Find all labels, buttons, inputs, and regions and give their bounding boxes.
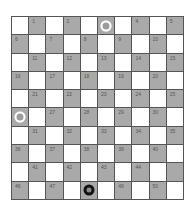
square-number: 31: [32, 129, 38, 134]
light-square: [167, 72, 183, 89]
square-number: 29: [118, 110, 124, 115]
light-square: [167, 145, 183, 162]
square-number: 13: [101, 56, 107, 61]
square-23[interactable]: 23: [98, 90, 114, 107]
square-29[interactable]: 29: [115, 108, 131, 125]
square-18[interactable]: 18: [81, 72, 97, 89]
light-square: [46, 90, 62, 107]
square-number: 10: [153, 37, 159, 42]
square-number: 28: [84, 110, 90, 115]
light-square: [12, 17, 28, 34]
square-11[interactable]: 11: [29, 54, 45, 71]
square-34[interactable]: 34: [132, 127, 148, 144]
square-14[interactable]: 14: [132, 54, 148, 71]
checkers-board: 1245678910111213141516171819202122232425…: [11, 16, 184, 200]
square-number: 44: [135, 165, 141, 170]
square-32[interactable]: 32: [64, 127, 80, 144]
square-number: 35: [170, 129, 176, 134]
square-13[interactable]: 13: [98, 54, 114, 71]
light-square: [115, 90, 131, 107]
square-number: 33: [101, 129, 107, 134]
square-2[interactable]: 2: [64, 17, 80, 34]
light-square: [167, 182, 183, 199]
square-42[interactable]: 42: [64, 163, 80, 180]
square-number: 38: [84, 147, 90, 152]
light-square: [64, 35, 80, 52]
light-square: [98, 108, 114, 125]
light-square: [132, 72, 148, 89]
square-number: 42: [67, 165, 73, 170]
square-41[interactable]: 41: [29, 163, 45, 180]
light-square: [12, 127, 28, 144]
square-3[interactable]: [98, 17, 114, 34]
light-square: [98, 72, 114, 89]
light-square: [81, 163, 97, 180]
square-number: 46: [15, 184, 21, 189]
light-square: [12, 90, 28, 107]
light-square: [150, 127, 166, 144]
square-47[interactable]: 47: [46, 182, 62, 199]
square-17[interactable]: 17: [46, 72, 62, 89]
square-number: 49: [118, 184, 124, 189]
square-43[interactable]: 43: [98, 163, 114, 180]
square-number: 23: [101, 92, 107, 97]
light-square: [132, 182, 148, 199]
light-square: [98, 145, 114, 162]
black-piece[interactable]: [83, 185, 94, 196]
light-square: [81, 90, 97, 107]
square-15[interactable]: 15: [167, 54, 183, 71]
square-38[interactable]: 38: [81, 145, 97, 162]
square-30[interactable]: 30: [150, 108, 166, 125]
square-12[interactable]: 12: [64, 54, 80, 71]
light-square: [64, 182, 80, 199]
square-1[interactable]: 1: [29, 17, 45, 34]
white-piece[interactable]: [101, 20, 112, 31]
light-square: [132, 35, 148, 52]
light-square: [115, 127, 131, 144]
square-49[interactable]: 49: [115, 182, 131, 199]
square-4[interactable]: 4: [132, 17, 148, 34]
square-number: 50: [153, 184, 159, 189]
square-19[interactable]: 19: [115, 72, 131, 89]
square-21[interactable]: 21: [29, 90, 45, 107]
square-9[interactable]: 9: [115, 35, 131, 52]
square-6[interactable]: 6: [12, 35, 28, 52]
square-22[interactable]: 22: [64, 90, 80, 107]
square-5[interactable]: 5: [167, 17, 183, 34]
square-20[interactable]: 20: [150, 72, 166, 89]
square-39[interactable]: 39: [115, 145, 131, 162]
square-number: 4: [135, 19, 138, 24]
square-number: 39: [118, 147, 124, 152]
square-number: 20: [153, 74, 159, 79]
square-48[interactable]: [81, 182, 97, 199]
white-piece[interactable]: [15, 112, 26, 123]
square-40[interactable]: 40: [150, 145, 166, 162]
square-24[interactable]: 24: [132, 90, 148, 107]
square-33[interactable]: 33: [98, 127, 114, 144]
light-square: [64, 145, 80, 162]
square-31[interactable]: 31: [29, 127, 45, 144]
square-8[interactable]: 8: [81, 35, 97, 52]
square-27[interactable]: 27: [46, 108, 62, 125]
square-number: 21: [32, 92, 38, 97]
square-10[interactable]: 10: [150, 35, 166, 52]
square-16[interactable]: 16: [12, 72, 28, 89]
square-number: 6: [15, 37, 18, 42]
square-26[interactable]: [12, 108, 28, 125]
light-square: [81, 54, 97, 71]
light-square: [29, 35, 45, 52]
square-7[interactable]: 7: [46, 35, 62, 52]
square-44[interactable]: 44: [132, 163, 148, 180]
square-35[interactable]: 35: [167, 127, 183, 144]
light-square: [150, 17, 166, 34]
square-28[interactable]: 28: [81, 108, 97, 125]
light-square: [115, 163, 131, 180]
square-37[interactable]: 37: [46, 145, 62, 162]
square-46[interactable]: 46: [12, 182, 28, 199]
light-square: [12, 163, 28, 180]
square-50[interactable]: 50: [150, 182, 166, 199]
square-36[interactable]: 36: [12, 145, 28, 162]
square-45[interactable]: [167, 163, 183, 180]
square-25[interactable]: 25: [167, 90, 183, 107]
light-square: [46, 54, 62, 71]
